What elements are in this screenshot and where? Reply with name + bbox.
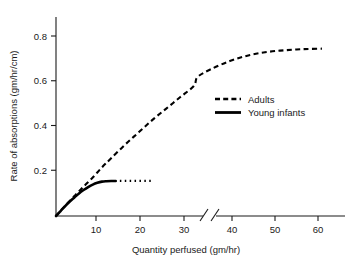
axis-break-slash-right: [211, 209, 219, 221]
legend: Adults Young infants: [215, 94, 305, 119]
y-tick-label-0.2: 0.2: [34, 165, 47, 176]
x-tick-label-20: 20: [135, 224, 146, 235]
series-line-adults: [56, 49, 322, 216]
x-tick-label-50: 50: [270, 224, 281, 235]
y-tick-label-0.8: 0.8: [34, 31, 47, 42]
x-tick-label-10: 10: [91, 224, 102, 235]
y-tick-label-0.6: 0.6: [34, 75, 47, 86]
x-tick-label-40: 40: [227, 224, 238, 235]
y-axis: 0.8 0.6 0.4 0.2 Rate of absorptions (gm/…: [8, 17, 56, 216]
x-axis-title: Quantity perfused (gm/hr): [132, 244, 240, 255]
series-line-young-infants: [56, 181, 116, 216]
y-tick-label-0.4: 0.4: [34, 120, 47, 131]
legend-label-adults: Adults: [248, 94, 275, 105]
legend-label-young-infants: Young infants: [248, 107, 305, 118]
data-series-group: [56, 49, 322, 216]
line-chart: 0.8 0.6 0.4 0.2 Rate of absorptions (gm/…: [0, 0, 359, 268]
x-axis: 10 20 30 40 50 60 Quantity perfused (gm/…: [56, 209, 345, 255]
x-tick-label-60: 60: [313, 224, 324, 235]
axis-break-slash-left: [200, 209, 208, 221]
y-axis-title: Rate of absorptions (gm/hr/cm): [8, 51, 19, 182]
chart-figure: 0.8 0.6 0.4 0.2 Rate of absorptions (gm/…: [0, 0, 359, 268]
x-tick-label-30: 30: [179, 224, 190, 235]
